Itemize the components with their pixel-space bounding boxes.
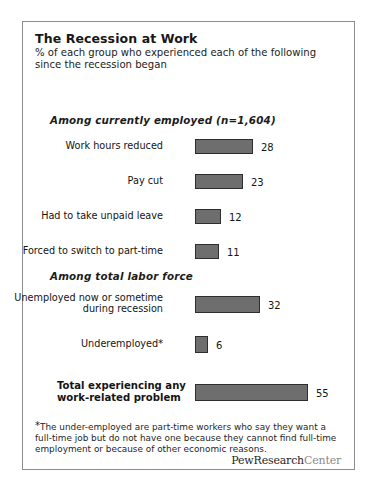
bar-track: 12 <box>195 209 221 224</box>
bar-value-label: 55 <box>316 387 329 398</box>
figure-frame: The Recession at Work % of each group wh… <box>22 21 355 470</box>
bar-label: Pay cut <box>0 175 163 186</box>
bar-label: Had to take unpaid leave <box>0 210 163 221</box>
bar-track: 55 <box>195 384 308 401</box>
bar-value-label: 6 <box>216 339 222 350</box>
bar-value-label: 28 <box>261 141 274 152</box>
bar-rect <box>195 209 221 224</box>
bar-value-label: 12 <box>229 211 242 222</box>
chart-title: The Recession at Work <box>35 31 343 46</box>
bar-rect <box>195 296 260 313</box>
bar-rect <box>195 174 243 189</box>
group-heading: Among total labor force <box>50 270 193 282</box>
chart-subtitle: % of each group who experienced each of … <box>35 47 335 71</box>
bar-track: 23 <box>195 174 243 189</box>
brand-secondary: Center <box>304 454 341 467</box>
bar-track: 6 <box>195 336 208 353</box>
bar-label: Work hours reduced <box>0 140 163 151</box>
bar-rect <box>195 139 253 154</box>
bar-value-label: 32 <box>268 299 281 310</box>
footnote-text: The under-employed are part-time workers… <box>35 422 336 454</box>
bar-track: 28 <box>195 139 253 154</box>
group-heading: Among currently employed (n=1,604) <box>50 114 276 126</box>
bar-rect <box>195 244 219 259</box>
bar-track: 11 <box>195 244 219 259</box>
bar-label: Underemployed* <box>0 338 163 349</box>
bar-value-label: 23 <box>251 176 264 187</box>
bar-label: Unemployed now or sometime during recess… <box>0 292 163 315</box>
bar-value-label: 11 <box>227 246 240 257</box>
bar-label: Total experiencing any work-related prob… <box>57 380 217 404</box>
bar-label: Forced to switch to part-time <box>0 245 163 256</box>
pew-research-center-logo: PewResearchCenter <box>231 454 341 467</box>
bar-rect <box>195 336 208 353</box>
bar-track: 32 <box>195 296 260 313</box>
footnote: *The under-employed are part-time worker… <box>35 420 343 455</box>
brand-primary: PewResearch <box>231 454 304 467</box>
bar-rect <box>195 384 308 401</box>
